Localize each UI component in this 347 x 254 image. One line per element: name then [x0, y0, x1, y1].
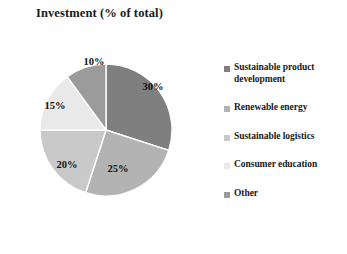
chart-title: Investment (% of total) [36, 6, 163, 21]
legend-swatch-icon [224, 106, 230, 112]
legend-swatch-icon [224, 163, 230, 169]
pie-chart-figure: Investment (% of total) 30%25%20%15%10% … [0, 0, 347, 254]
legend-item-label: Sustainable product development [234, 62, 344, 85]
legend-swatch-icon [224, 135, 230, 141]
slice-value-label: 30% [143, 81, 164, 92]
legend-item-label: Other [234, 188, 258, 200]
legend-item[interactable]: Other [224, 188, 344, 200]
legend-swatch-icon [224, 192, 230, 198]
slice-value-label: 15% [45, 100, 66, 111]
legend-item-label: Sustainable logistics [234, 131, 315, 143]
legend-item[interactable]: Sustainable logistics [224, 131, 344, 143]
legend-item[interactable]: Consumer education [224, 159, 344, 171]
legend-item[interactable]: Sustainable product development [224, 62, 344, 85]
slice-value-label: 20% [57, 159, 78, 170]
slice-value-label: 25% [108, 163, 129, 174]
legend-item-label: Consumer education [234, 159, 317, 171]
legend-swatch-icon [224, 66, 230, 72]
legend-item[interactable]: Renewable energy [224, 102, 344, 114]
legend-item-label: Renewable energy [234, 102, 307, 114]
slice-value-label: 10% [84, 56, 105, 67]
chart-legend: Sustainable product developmentRenewable… [224, 62, 344, 216]
